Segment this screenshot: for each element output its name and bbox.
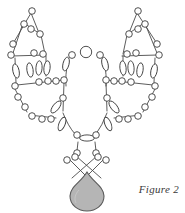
round-bead [97,52,104,59]
bugle-bead [107,99,121,114]
round-bead [142,21,149,28]
round-bead [21,21,28,28]
bugle-bead [49,99,63,114]
round-bead [15,94,22,101]
round-bead [152,83,159,90]
round-bead [149,94,156,101]
bugle-beads [11,56,158,141]
round-bead [29,8,36,15]
bugle-bead [127,61,134,76]
round-bead [10,41,17,48]
round-bead [36,79,43,86]
round-bead [53,78,60,85]
round-bead [60,95,67,102]
round-bead [142,104,149,111]
thread-lines [12,13,158,178]
bugle-bead [11,63,20,78]
round-bead [124,51,131,58]
bugle-bead [43,61,51,76]
round-bead [135,8,142,15]
round-bead [135,26,142,33]
round-bead [119,78,126,85]
round-bead-large [80,46,91,57]
round-bead [61,77,68,84]
round-bead [103,77,110,84]
round-bead [135,113,142,120]
round-bead [69,52,76,59]
teardrop-pendant [70,172,104,211]
figure-caption: Figure 2 [139,183,179,195]
bugle-bead [119,61,127,76]
round-bead [29,113,36,120]
bugle-bead [35,61,42,76]
round-bead [126,31,133,38]
round-bead [40,51,47,58]
bugle-bead [100,56,109,71]
round-bead [45,78,52,85]
round-bead [22,104,29,111]
bugle-bead [61,56,70,71]
round-bead [103,157,110,164]
bugle-bead [102,116,113,132]
bugle-bead [56,116,67,132]
round-bead [111,78,118,85]
round-bead [12,83,19,90]
round-bead [28,26,35,33]
pendant-shape [70,172,104,211]
round-bead [95,154,102,161]
thread-left-tri-leftside [13,26,22,53]
beading-diagram [0,0,185,213]
bugle-bead-horizontal [80,135,95,141]
round-bead [104,95,111,102]
round-bead [39,116,46,123]
thread-right-tri-rightside [146,26,157,53]
bugle-bead [136,62,144,77]
round-bead [64,157,71,164]
round-bead [133,50,140,57]
figure-page: Figure 2 [0,0,185,213]
round-bead [154,41,161,48]
round-bead [31,50,38,57]
round-bead [74,132,81,139]
bugle-bead [26,62,34,77]
round-bead [128,79,135,86]
round-bead [37,31,44,38]
round-bead [48,116,55,123]
round-bead [93,132,100,139]
bugle-bead [149,63,158,78]
round-bead [116,116,123,123]
round-bead [72,154,79,161]
round-bead [156,52,163,59]
round-bead [125,116,132,123]
round-bead [8,52,15,59]
